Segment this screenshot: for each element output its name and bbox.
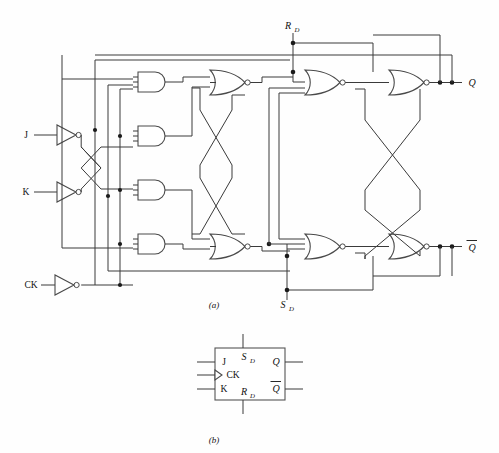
and-gate-1 <box>133 72 210 92</box>
pin-label-k: K <box>221 384 228 394</box>
junction-dot <box>118 134 122 138</box>
wire-sxc-c <box>355 253 365 259</box>
rd-rail: R D <box>284 20 373 82</box>
wire-xc-a <box>192 88 200 95</box>
label-rd: R <box>284 20 291 31</box>
label-rd-sub: D <box>294 26 300 33</box>
nor-gate-3 <box>305 70 389 95</box>
wire-sd-to-n6 <box>287 256 373 290</box>
inverter-ck <box>55 275 79 295</box>
junction-dot <box>285 254 290 259</box>
input-label-j: J <box>24 130 28 140</box>
label-sd: S <box>281 299 286 310</box>
wire-n2out-to-n1in <box>200 95 232 234</box>
pin-label-q: Q <box>272 356 280 367</box>
input-labels: J K CK <box>23 130 38 290</box>
nor-gate-1 <box>210 70 293 95</box>
inverter-k <box>57 182 81 202</box>
pin-label-rd-sub: D <box>249 392 255 399</box>
pin-label-sd-sub: D <box>249 357 255 364</box>
caption-b: (b) <box>209 435 220 445</box>
wire-n1-out <box>250 77 293 83</box>
nor-gate-6 <box>389 234 462 259</box>
nor-gate-5 <box>389 70 462 95</box>
wire-a1-out <box>165 77 210 82</box>
junction-dot <box>291 41 296 46</box>
and-gate-3 <box>133 180 210 239</box>
output-label-qbar: Q <box>468 242 476 253</box>
pin-label-rd: R <box>240 386 247 397</box>
nor-gate-2 <box>210 234 290 259</box>
wire-cross-b <box>81 147 101 189</box>
wire-a4-out <box>165 244 210 249</box>
output-labels: Q Q <box>467 77 478 253</box>
and-gate-2 <box>133 87 210 146</box>
jk-crossover-wires <box>81 135 133 192</box>
junction-dot <box>118 188 122 192</box>
input-wires <box>34 135 57 285</box>
and-gate-4 <box>133 234 210 254</box>
middle-feedback-columns <box>269 82 305 249</box>
input-label-ck: CK <box>24 280 37 290</box>
input-label-k: K <box>23 187 30 197</box>
master-cross-coupling <box>192 88 245 234</box>
wire-a2-out <box>165 87 210 136</box>
label-sd-sub: D <box>288 305 294 312</box>
wire-a3-out <box>165 190 210 239</box>
junction-dot <box>93 128 97 132</box>
junction-dot <box>118 242 122 246</box>
inverter-j <box>57 125 81 145</box>
wire-n1out-to-n2in <box>200 95 232 234</box>
wire-jbar-cross <box>81 135 101 192</box>
junction-dot <box>118 283 122 287</box>
wire-rd-to-n5 <box>293 43 373 72</box>
wire-qbar-to-n5in <box>365 95 420 256</box>
symbol-panel-b: S D R D J CK K Q Q (b) <box>197 334 303 445</box>
pin-label-sd: S <box>242 351 247 362</box>
junction-dot <box>291 70 296 75</box>
pin-label-j: J <box>222 357 226 367</box>
output-label-q: Q <box>468 77 476 88</box>
pin-label-ck: CK <box>226 370 239 380</box>
schematic-panel-a: J K CK <box>23 20 477 312</box>
figure-jk-flip-flop: J K CK <box>0 0 499 453</box>
junction-dot <box>106 194 110 198</box>
wire-sxc-a <box>355 89 365 95</box>
caption-a: (a) <box>209 300 220 310</box>
wire-n2-out <box>250 247 290 252</box>
junction-dot <box>285 288 290 293</box>
pin-label-qbar: Q <box>272 383 280 394</box>
slave-cross-coupling <box>355 89 420 259</box>
